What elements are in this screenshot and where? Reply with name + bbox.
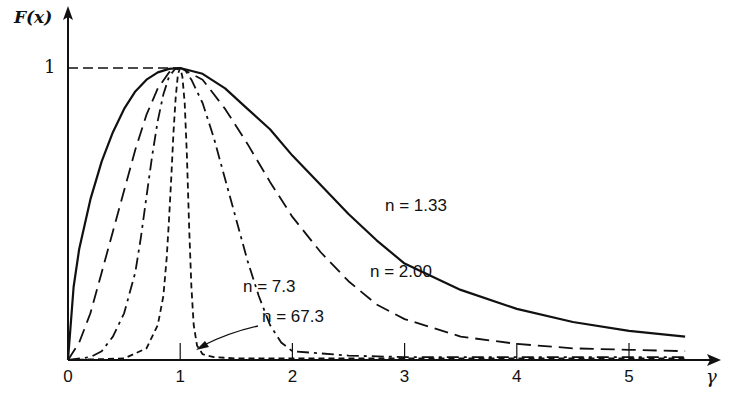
curve-7-3 <box>68 68 685 360</box>
label-n-2-00: n = 2.00 <box>370 262 432 282</box>
x-tick-label-3: 3 <box>400 367 409 387</box>
label-n-1-33: n = 1.33 <box>385 196 447 216</box>
annotation-arrow <box>196 326 258 350</box>
x-tick-label-5: 5 <box>624 367 633 387</box>
curves <box>68 68 685 360</box>
x-tick-label-1: 1 <box>175 367 184 387</box>
y-axis-label: F(x) <box>14 7 52 27</box>
axes <box>63 6 721 366</box>
x-tick-label-4: 4 <box>512 367 521 387</box>
x-axis-label: γ <box>706 366 717 387</box>
x-tick-label-0: 0 <box>63 367 72 387</box>
label-n-7-3: n = 7.3 <box>243 277 295 297</box>
chart-canvas <box>0 0 733 402</box>
label-n-67-3: n = 67.3 <box>262 307 324 327</box>
y-tick-label-1: 1 <box>44 56 55 77</box>
x-tick-label-2: 2 <box>288 367 297 387</box>
